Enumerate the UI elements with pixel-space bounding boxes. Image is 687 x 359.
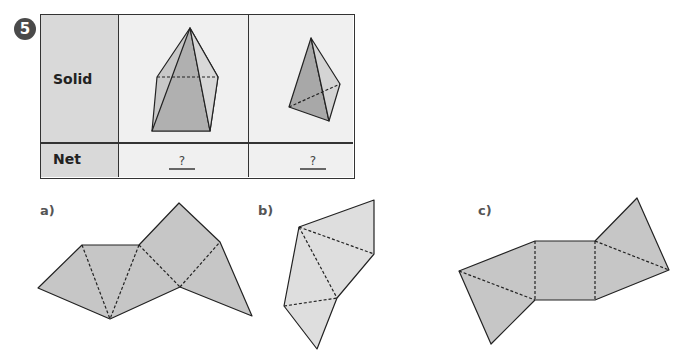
- geometry-figures: [0, 0, 687, 359]
- option-label-a: a): [40, 203, 55, 218]
- net-option-c[interactable]: [459, 198, 669, 344]
- net-option-a[interactable]: [38, 203, 252, 319]
- option-label-b: b): [258, 203, 273, 218]
- square-pyramid-figure: [152, 28, 218, 131]
- net-option-b[interactable]: [284, 200, 374, 349]
- triangular-pyramid-figure: [289, 38, 340, 121]
- option-label-c: c): [478, 203, 492, 218]
